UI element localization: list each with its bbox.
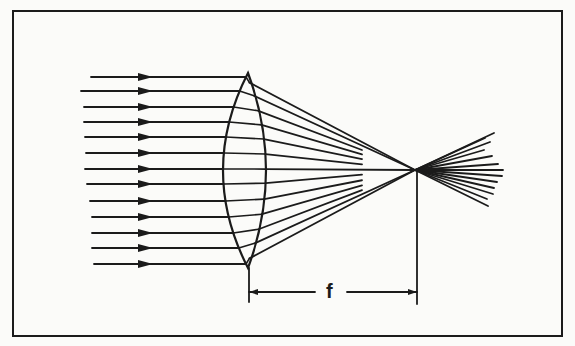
arrowhead-icon xyxy=(138,213,153,221)
arrowhead-icon xyxy=(138,180,153,188)
arrowhead-icon xyxy=(138,260,153,268)
arrowhead-icon xyxy=(138,244,153,252)
rays-inside-lens xyxy=(223,77,266,264)
arrowhead-right-icon xyxy=(408,289,417,295)
refracted-ray-in-lens xyxy=(224,153,266,154)
arrowhead-icon xyxy=(138,165,153,173)
refracted-ray-in-lens xyxy=(234,107,259,111)
arrowhead-icon xyxy=(138,87,153,95)
ray-arrowhead-icons xyxy=(138,73,153,268)
arrowhead-icon xyxy=(138,133,153,141)
diverging-ray xyxy=(415,170,493,194)
diverging-rays xyxy=(415,133,503,206)
arrowhead-icon xyxy=(138,149,153,157)
converging-ray xyxy=(254,96,415,170)
converging-rays xyxy=(249,83,415,259)
focal-length-dimension xyxy=(249,172,417,304)
focal-length-label: f xyxy=(326,281,333,301)
refracted-ray-in-lens xyxy=(239,243,255,248)
figure-frame xyxy=(13,11,562,336)
converging-ray xyxy=(266,175,362,184)
arrowhead-icon xyxy=(138,73,153,81)
converging-ray xyxy=(258,111,362,150)
converging-ray xyxy=(259,190,362,229)
refracted-ray-in-lens xyxy=(229,122,261,125)
arrowhead-icon xyxy=(138,118,153,126)
converging-ray xyxy=(255,170,415,243)
converging-ray xyxy=(266,169,415,170)
converging-ray xyxy=(262,125,362,155)
arrowhead-icon xyxy=(138,103,153,111)
incoming-parallel-rays xyxy=(81,77,246,264)
converging-ray xyxy=(249,83,415,170)
refracted-ray-in-lens xyxy=(225,199,264,201)
convex-lens xyxy=(223,73,266,268)
refracted-ray-in-lens xyxy=(223,183,265,184)
refracted-ray-in-lens xyxy=(226,137,264,139)
arrowhead-icon xyxy=(138,229,153,237)
refracted-ray-in-lens xyxy=(229,214,262,217)
refracted-ray-in-lens xyxy=(240,91,254,96)
refracted-ray-in-lens xyxy=(233,229,258,233)
arrowhead-left-icon xyxy=(249,289,258,295)
arrowhead-icon xyxy=(138,197,153,205)
lens-diagram xyxy=(0,0,575,346)
